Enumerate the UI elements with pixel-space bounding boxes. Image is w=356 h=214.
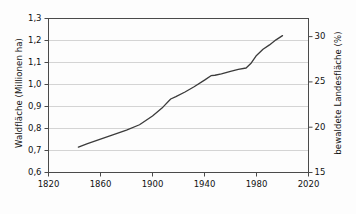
y-axis-right-tick-label: 15 — [315, 167, 341, 177]
x-axis-tick-label: 1900 — [135, 179, 171, 189]
y-axis-left-tick-label: 0,9 — [16, 101, 42, 111]
x-axis-tick-label: 1860 — [83, 179, 119, 189]
data-series-line — [78, 36, 282, 148]
y-axis-right-tick-label: 25 — [315, 76, 341, 86]
x-axis-tick-label: 1980 — [239, 179, 275, 189]
y-axis-right-tick-label: 20 — [315, 122, 341, 132]
x-axis-tick-label: 2020 — [291, 179, 327, 189]
y-axis-left-tick-label: 0,8 — [16, 123, 42, 133]
y-axis-left-tick-label: 0,6 — [16, 167, 42, 177]
x-axis-tick-label: 1940 — [187, 179, 223, 189]
y-axis-left-tick-label: 1,0 — [16, 79, 42, 89]
chart-figure: Waldfläche (Millionen ha) bewaldete Land… — [0, 0, 356, 214]
x-axis-tick-label: 1820 — [31, 179, 67, 189]
y-axis-left-tick-label: 1,2 — [16, 35, 42, 45]
y-axis-left-tick-label: 1,3 — [16, 13, 42, 23]
y-axis-left-tick-label: 0,7 — [16, 145, 42, 155]
y-axis-right-tick-label: 30 — [315, 31, 341, 41]
y-axis-left-tick-label: 1,1 — [16, 57, 42, 67]
